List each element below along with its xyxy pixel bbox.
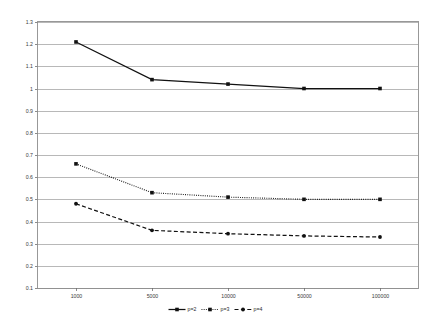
data-point-marker [226,232,230,236]
y-tick-label: 1.1 [26,63,33,69]
data-point-marker [74,202,78,206]
data-point-marker [226,82,230,86]
data-point-marker [74,162,78,166]
data-point-marker [302,87,306,91]
x-tick-label: 100000 [372,293,389,299]
y-tick-label: 1.2 [26,41,33,47]
line-chart: 0.10.20.30.40.50.60.70.80.911.11.21.3 10… [0,0,436,328]
data-point-marker [302,198,306,202]
y-tick-label: 1 [30,86,33,92]
data-point-marker [378,87,382,91]
data-point-marker [150,78,154,82]
y-tick-label: 0.6 [26,174,33,180]
legend-marker [208,308,212,312]
data-point-marker [378,235,382,239]
y-tick-label: 0.4 [26,219,33,225]
legend-label: p=4 [254,306,263,312]
x-tick-label: 50000 [297,293,312,299]
chart-canvas: 0.10.20.30.40.50.60.70.80.911.11.21.3 10… [0,0,436,328]
data-point-marker [150,228,154,232]
x-tick-label: 1000 [71,293,83,299]
legend-marker [241,308,245,312]
y-tick-label: 0.2 [26,263,33,269]
y-tick-label: 0.3 [26,241,33,247]
legend-label: p=2 [188,306,197,312]
x-tick-label: 10000 [221,293,236,299]
y-tick-label: 0.1 [26,285,33,291]
y-tick-label: 0.8 [26,130,33,136]
legend-marker [175,308,179,312]
data-point-marker [226,195,230,199]
y-tick-label: 0.5 [26,196,33,202]
data-point-marker [150,191,154,195]
data-point-marker [378,198,382,202]
legend-label: p=3 [221,306,230,312]
chart-background [0,0,436,328]
y-tick-label: 0.9 [26,108,33,114]
y-tick-label: 1.3 [26,19,33,25]
data-point-marker [302,234,306,238]
y-tick-label: 0.7 [26,152,33,158]
data-point-marker [74,40,78,44]
x-tick-label: 5000 [147,293,159,299]
